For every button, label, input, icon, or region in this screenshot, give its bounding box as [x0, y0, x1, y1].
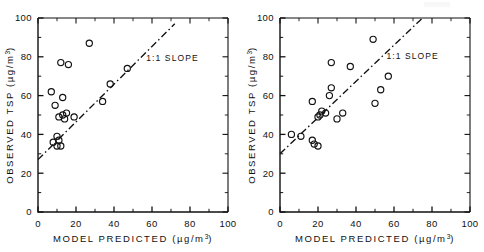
right-ytick-label: 80: [263, 51, 274, 62]
right-ytick-label: 0: [268, 206, 274, 217]
left-data-point: [71, 114, 77, 120]
right-yaxis-title: OBSERVED TSP (µg/m3): [246, 46, 258, 184]
left-ytick-label: 20: [21, 168, 32, 179]
left-ytick-label: 60: [21, 90, 32, 101]
right-xtick-label: 40: [350, 218, 361, 229]
left-ytick-label: 100: [15, 12, 32, 23]
right-xtick-label: 80: [426, 218, 437, 229]
two-panel-scatter-figure: 1:1 SLOPE 020406080100020406080100MODEL …: [0, 0, 484, 252]
right-slope-annotation: 1:1 SLOPE: [386, 51, 438, 61]
right-data-point: [347, 63, 353, 69]
left-xaxis-title: MODEL PREDICTED (µg/m3): [53, 233, 213, 245]
right-reference-line: 1:1 SLOPE: [280, 18, 439, 154]
left-xtick-label: 60: [146, 218, 157, 229]
right-xtick-label: 0: [277, 218, 283, 229]
left-data-points: [48, 40, 130, 149]
left-data-point: [65, 61, 71, 67]
left-ytick-label: 80: [21, 51, 32, 62]
right-data-point: [340, 110, 346, 116]
right-data-point: [370, 36, 376, 42]
left-data-point: [48, 89, 54, 95]
left-data-point: [58, 143, 64, 149]
scan-artifact: [424, 2, 450, 7]
right-data-point: [309, 98, 315, 104]
right-data-point: [372, 100, 378, 106]
chart-panel-left: 1:1 SLOPE 020406080100020406080100MODEL …: [0, 0, 242, 252]
left-xtick-label: 80: [184, 218, 195, 229]
left-ytick-label: 40: [21, 129, 32, 140]
left-axes: [38, 18, 228, 212]
left-data-point: [100, 98, 106, 104]
left-xtick-label: 0: [35, 218, 41, 229]
left-ytick-label: 0: [26, 206, 32, 217]
left-data-point: [52, 102, 58, 108]
right-data-point: [288, 131, 294, 137]
right-xtick-label: 60: [388, 218, 399, 229]
right-data-point: [385, 73, 391, 79]
left-xtick-label: 20: [70, 218, 81, 229]
left-yaxis-title: OBSERVED TSP (µg/m3): [4, 46, 16, 184]
right-ytick-label: 20: [263, 168, 274, 179]
left-xtick-label: 100: [219, 218, 236, 229]
right-data-point: [334, 116, 340, 122]
right-data-point: [328, 85, 334, 91]
right-xaxis-title: MODEL PREDICTED (µg/m3): [295, 233, 455, 245]
left-xtick-label: 40: [108, 218, 119, 229]
right-data-point: [328, 60, 334, 66]
right-xtick-label: 20: [312, 218, 323, 229]
right-axes: [280, 18, 470, 212]
left-slope-annotation: 1:1 SLOPE: [146, 53, 198, 63]
right-panel-svg: 1:1 SLOPE 020406080100020406080100MODEL …: [242, 0, 484, 252]
left-data-point: [58, 60, 64, 66]
right-ytick-label: 100: [257, 12, 274, 23]
right-data-point: [326, 93, 332, 99]
right-xtick-label: 100: [461, 218, 478, 229]
right-data-points: [288, 36, 391, 149]
right-data-point: [378, 87, 384, 93]
left-panel-svg: 1:1 SLOPE 020406080100020406080100MODEL …: [0, 0, 242, 252]
left-data-point: [60, 94, 66, 100]
chart-panel-right: 1:1 SLOPE 020406080100020406080100MODEL …: [242, 0, 484, 252]
left-data-point: [86, 40, 92, 46]
left-data-point: [107, 81, 113, 87]
right-ytick-label: 40: [263, 129, 274, 140]
right-ytick-label: 60: [263, 90, 274, 101]
